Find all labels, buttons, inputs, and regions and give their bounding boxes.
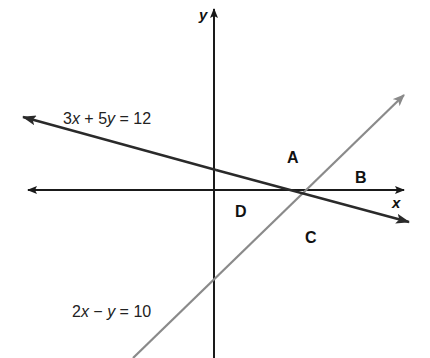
- equation-label-line-2: 2x − y = 10: [72, 303, 151, 320]
- region-label-b: B: [355, 169, 367, 186]
- line-3x-plus-5y-eq-12: [23, 117, 409, 222]
- region-label-d: D: [235, 203, 247, 220]
- line-2x-minus-y-eq-10: [133, 95, 404, 358]
- x-axis-label: x: [391, 194, 401, 211]
- region-label-a: A: [287, 149, 299, 166]
- y-axis-label: y: [198, 6, 208, 23]
- region-label-c: C: [305, 229, 317, 246]
- equation-label-line-1: 3x + 5y = 12: [63, 110, 151, 127]
- coordinate-plane-diagram: y x 3x + 5y = 12 2x − y = 10 A B C D: [0, 0, 430, 358]
